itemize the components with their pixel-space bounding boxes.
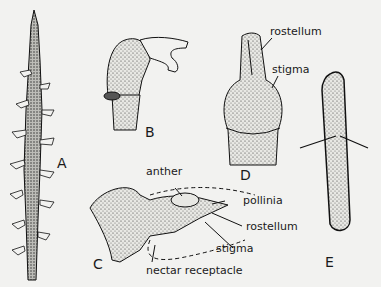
label-c-stigma: stigma — [216, 243, 254, 254]
label-c-pollinia: pollinia — [243, 195, 283, 206]
panel-label-d: D — [240, 168, 251, 182]
label-d-stigma: stigma — [272, 64, 310, 75]
panel-a-spike — [10, 10, 54, 280]
panel-label-b: B — [145, 125, 155, 139]
panel-label-e: E — [325, 255, 334, 269]
label-d-rostellum: rostellum — [270, 26, 322, 37]
botanical-figure: A B C D E rostellum stigma anther pollin… — [0, 0, 381, 287]
panel-d-column-front — [224, 33, 282, 165]
label-c-nectar-receptacle: nectar receptacle — [146, 265, 243, 276]
label-c-anther: anther — [146, 166, 182, 177]
panel-label-a: A — [57, 156, 67, 170]
figure-drawing — [0, 0, 381, 287]
label-c-rostellum: rostellum — [246, 221, 298, 232]
panel-label-c: C — [93, 257, 103, 271]
panel-b-flower — [104, 37, 188, 130]
panel-e-pollinium — [300, 72, 368, 230]
